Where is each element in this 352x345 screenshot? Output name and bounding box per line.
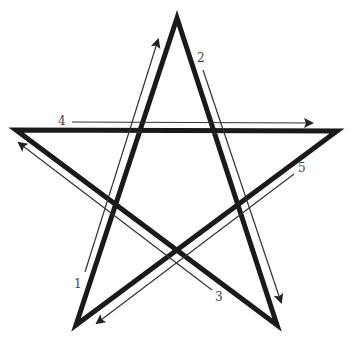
step-label-2: 2 <box>197 52 205 64</box>
stroke-arrow-1 <box>85 40 158 272</box>
step-label-5: 5 <box>298 162 306 174</box>
step-label-3: 3 <box>215 291 223 303</box>
pentagram-star <box>16 18 337 325</box>
step-label-4: 4 <box>58 115 66 127</box>
stroke-arrow-4 <box>72 122 312 123</box>
stroke-arrow-3 <box>19 143 212 290</box>
stroke-arrow-5 <box>97 174 294 323</box>
step-label-1: 1 <box>74 278 82 290</box>
stroke-arrow-2 <box>203 70 281 302</box>
